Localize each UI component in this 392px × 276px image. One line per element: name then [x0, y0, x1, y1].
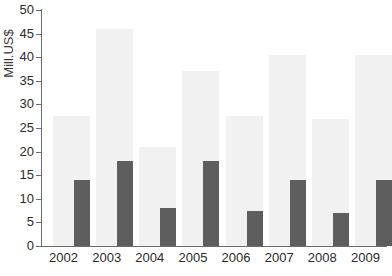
x-axis-tick-label: 2004 [128, 250, 171, 265]
x-axis-tick-label: 2002 [42, 250, 85, 265]
y-axis-tick-label: 15 [4, 168, 34, 181]
bar-group [215, 10, 258, 246]
y-axis-tick-label: 20 [4, 145, 34, 158]
y-axis-tick-label: 0 [4, 239, 34, 252]
y-axis-title: Mill.US$ [0, 0, 16, 140]
y-axis-tick-label: 25 [4, 121, 34, 134]
bar-group [258, 10, 301, 246]
x-axis-tick-label: 2006 [215, 250, 258, 265]
x-axis-tick-label: 2005 [171, 250, 214, 265]
bar-group [85, 10, 128, 246]
bar-group [171, 10, 214, 246]
y-axis-tick-label: 10 [4, 192, 34, 205]
bar-group [42, 10, 85, 246]
y-axis-tick-label: 5 [4, 215, 34, 228]
x-axis-tick-label: 2009 [344, 250, 387, 265]
bar-group [344, 10, 387, 246]
y-axis-tick-label: 45 [4, 27, 34, 40]
y-axis-tick-label: 50 [4, 3, 34, 16]
plot-area [42, 10, 387, 246]
x-axis-tick-label: 2008 [301, 250, 344, 265]
bar-group [301, 10, 344, 246]
y-axis-tick-label: 30 [4, 97, 34, 110]
y-axis-tick-mark [36, 246, 42, 247]
y-axis-tick-label: 40 [4, 50, 34, 63]
x-axis-tick-label: 2003 [85, 250, 128, 265]
y-axis-tick-label: 35 [4, 74, 34, 87]
bar-dark [376, 180, 392, 246]
bar-group [128, 10, 171, 246]
x-axis-line [41, 246, 387, 247]
x-axis-tick-label: 2007 [258, 250, 301, 265]
